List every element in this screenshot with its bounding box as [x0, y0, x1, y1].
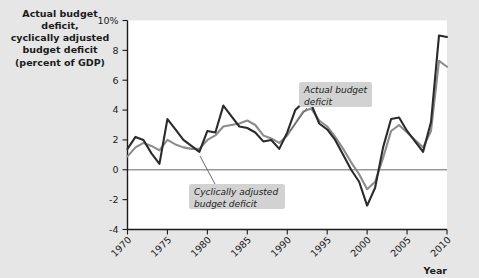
y-tick-label: 0: [112, 164, 118, 175]
y-tick-label: 2: [112, 134, 118, 145]
x-tick-label: 2010: [428, 234, 453, 259]
x-tick-label: 1970: [109, 234, 134, 259]
y-tick-label: 4: [112, 104, 118, 115]
x-tick-label: 2000: [348, 234, 373, 259]
y-tick-label: -2: [109, 194, 118, 205]
chart-title: Actual budget deficit, cyclically adjust…: [4, 8, 116, 69]
x-tick-label: 1975: [148, 234, 173, 259]
y-tick-label: 6: [112, 75, 118, 86]
x-tick-label: 1995: [308, 234, 333, 259]
x-axis-label: Year: [422, 265, 447, 276]
x-tick-label: 1980: [188, 234, 213, 259]
x-axis: 197019751980198519901995200020052010: [109, 230, 453, 260]
x-tick-label: 2005: [388, 234, 413, 259]
y-tick-label: -4: [109, 224, 118, 235]
x-tick-label: 1990: [268, 234, 293, 259]
x-tick-label: 1985: [228, 234, 253, 259]
chart-figure: Actual budget deficit, cyclically adjust…: [0, 0, 479, 278]
